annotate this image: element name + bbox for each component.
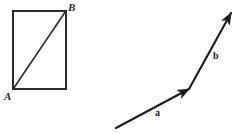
figure-canvas: A B a b (0, 0, 232, 134)
vector-b-line (189, 13, 231, 89)
vector-label-a: a (155, 108, 160, 118)
rectangle-figure (13, 11, 66, 89)
diagonal-line-AB (14, 12, 66, 89)
vector-label-b: b (213, 51, 219, 61)
figure-svg (0, 0, 232, 134)
vector-figure (116, 13, 231, 128)
vertex-label-a: A (4, 91, 11, 102)
vector-a-line (116, 89, 189, 128)
vertex-label-b: B (68, 2, 75, 13)
